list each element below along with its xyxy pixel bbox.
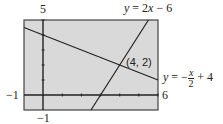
eq2-tail: + 4	[194, 70, 213, 84]
ymin-label: −1	[37, 112, 50, 124]
intersection-label: (4, 2)	[126, 56, 152, 68]
eq1-tail: − 6	[153, 1, 172, 15]
eq1-rhs: = 2	[129, 1, 148, 15]
equation-label-1: y = 2x − 6	[124, 2, 172, 14]
ymax-label: 5	[40, 3, 46, 15]
xmin-label: −1	[6, 89, 19, 101]
graph-canvas	[0, 0, 223, 124]
xmax-label: 6	[162, 89, 168, 101]
eq2-eq: = −	[168, 70, 188, 84]
equation-label-2: y = −x2 + 4	[163, 68, 213, 89]
